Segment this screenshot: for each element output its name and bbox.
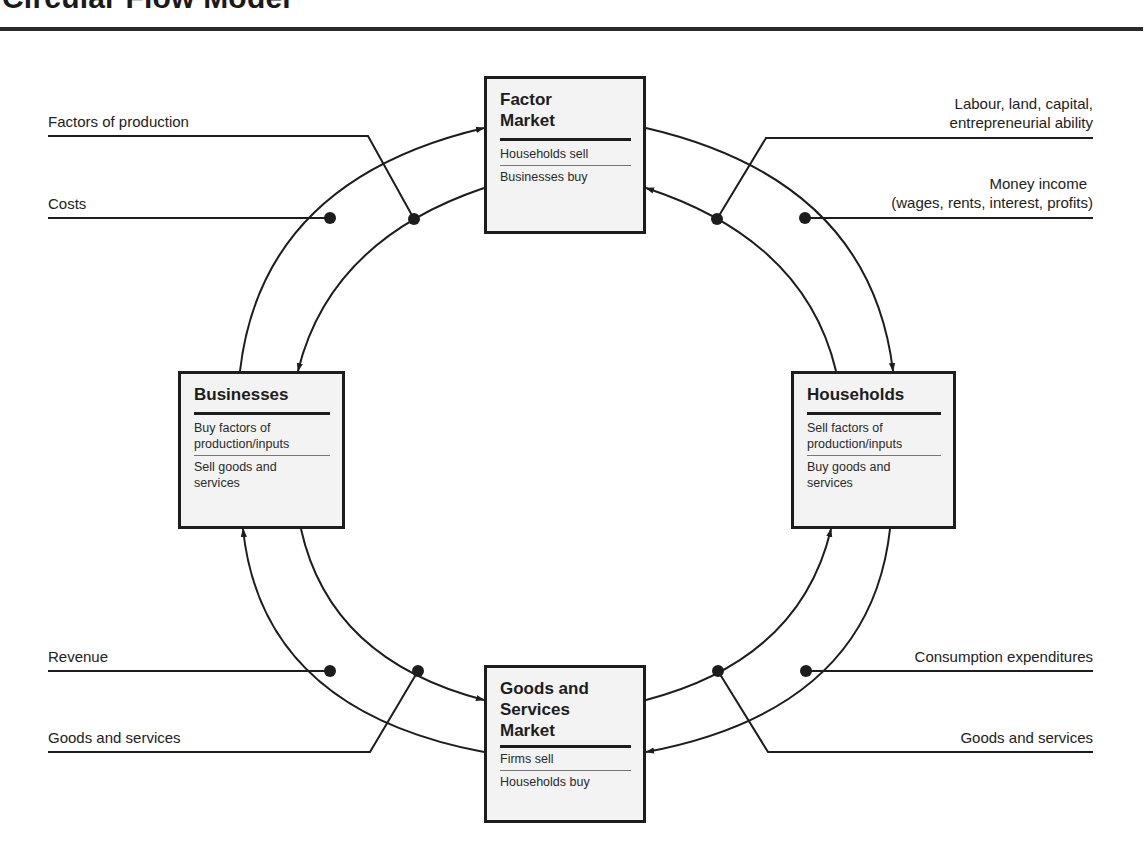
label-line: Labour, land, capital,	[950, 94, 1093, 113]
label-consumption-expenditures: Consumption expenditures	[915, 647, 1093, 666]
label-line: (wages, rents, interest, profits)	[891, 193, 1093, 212]
box-divider	[194, 455, 330, 456]
households-role-buy: Buy goods and services	[807, 459, 941, 491]
role-line: Buy goods and	[807, 459, 941, 475]
goods-market-role-sell: Firms sell	[500, 751, 631, 767]
label-goods-and-services-right: Goods and services	[960, 728, 1093, 747]
junction-dot	[324, 665, 336, 677]
households-box: Households Sell factors of production/in…	[791, 371, 956, 529]
factor-market-box: Factor Market Households sell Businesses…	[484, 76, 646, 234]
label-factors-of-production: Factors of production	[48, 112, 189, 131]
title-line: Services	[500, 699, 631, 720]
junction-dot	[800, 665, 812, 677]
box-divider	[194, 412, 330, 415]
label-revenue: Revenue	[48, 647, 108, 666]
box-divider	[500, 770, 631, 771]
households-title: Households	[807, 384, 941, 405]
title-line: Goods and	[500, 678, 631, 699]
junction-dot	[712, 665, 724, 677]
flow-arc-costs	[240, 128, 484, 371]
factor-market-title: Factor Market	[500, 89, 631, 131]
junction-dot	[799, 212, 811, 224]
businesses-role-buy: Buy factors of production/inputs	[194, 420, 330, 452]
junction-dot	[412, 665, 424, 677]
flow-arc-consumption	[646, 529, 890, 752]
junction-dot	[408, 213, 420, 225]
factor-market-role-sell: Households sell	[500, 146, 631, 162]
box-divider	[500, 138, 631, 141]
businesses-title: Businesses	[194, 384, 330, 405]
label-labour-land-capital: Labour, land, capital, entrepreneurial a…	[950, 94, 1093, 132]
role-line: Sell goods and	[194, 459, 330, 475]
label-goods-and-services-left: Goods and services	[48, 728, 181, 747]
box-divider	[807, 455, 941, 456]
goods-market-title: Goods and Services Market	[500, 678, 631, 741]
title-line: Market	[500, 110, 631, 131]
junction-dot	[324, 212, 336, 224]
label-line: Money income	[891, 174, 1093, 193]
businesses-role-sell: Sell goods and services	[194, 459, 330, 491]
goods-services-market-box: Goods and Services Market Firms sell Hou…	[484, 665, 646, 823]
junction-dot	[711, 213, 723, 225]
title-line: Factor	[500, 89, 631, 110]
flow-arc-money-income	[646, 128, 893, 371]
role-line: Sell factors of	[807, 420, 941, 436]
households-role-sell: Sell factors of production/inputs	[807, 420, 941, 452]
role-line: services	[194, 475, 330, 491]
businesses-box: Businesses Buy factors of production/inp…	[178, 371, 345, 529]
role-line: production/inputs	[807, 436, 941, 452]
role-line: Buy factors of	[194, 420, 330, 436]
box-divider	[500, 165, 631, 166]
role-line: services	[807, 475, 941, 491]
role-line: production/inputs	[194, 436, 330, 452]
box-divider	[500, 745, 631, 748]
label-costs: Costs	[48, 194, 86, 213]
box-divider	[807, 412, 941, 415]
title-line: Market	[500, 720, 631, 741]
label-line: entrepreneurial ability	[950, 113, 1093, 132]
label-money-income: Money income (wages, rents, interest, pr…	[891, 174, 1093, 212]
goods-market-role-buy: Households buy	[500, 774, 631, 790]
factor-market-role-buy: Businesses buy	[500, 169, 631, 185]
